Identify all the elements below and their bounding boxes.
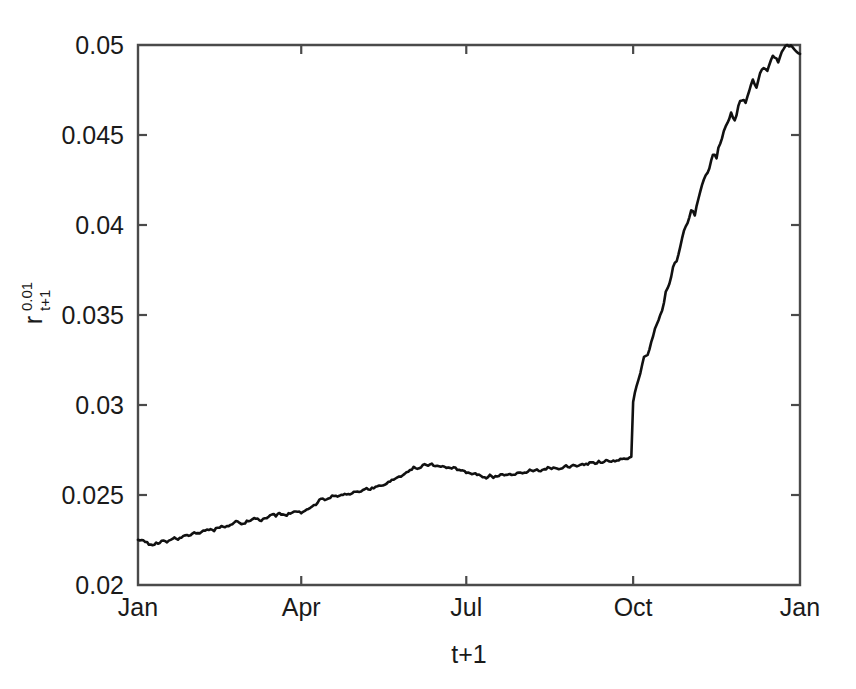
y-axis-title: r 0.01 t+1 xyxy=(18,282,53,324)
x-axis-title: t+1 xyxy=(451,640,486,668)
figure-container: 0.020.0250.030.0350.040.0450.05 JanAprJu… xyxy=(0,0,856,689)
series-line-r-001 xyxy=(138,45,800,545)
x-tick-label: Jul xyxy=(450,593,482,621)
x-tick-label: Oct xyxy=(614,593,653,621)
y-tick-label: 0.05 xyxy=(75,31,124,59)
data-series-group xyxy=(138,45,800,545)
y-tick-label: 0.035 xyxy=(61,301,124,329)
y-tick-label: 0.04 xyxy=(75,211,124,239)
axis-frame xyxy=(138,45,800,585)
y-tick-label: 0.025 xyxy=(61,481,124,509)
y-axis-tick-labels: 0.020.0250.030.0350.040.0450.05 xyxy=(61,31,124,599)
y-axis-title-subscript: t+1 xyxy=(36,290,53,311)
y-tick-label: 0.02 xyxy=(75,571,124,599)
x-axis-ticks xyxy=(301,45,633,585)
y-axis-title-superscript: 0.01 xyxy=(18,282,35,311)
y-axis-title-base: r xyxy=(19,316,47,324)
x-axis-tick-labels: JanAprJulOctJan xyxy=(118,593,820,621)
x-tick-label: Jan xyxy=(780,593,820,621)
y-tick-label: 0.03 xyxy=(75,391,124,419)
y-tick-label: 0.045 xyxy=(61,121,124,149)
x-tick-label: Apr xyxy=(282,593,321,621)
x-tick-label: Jan xyxy=(118,593,158,621)
line-chart: 0.020.0250.030.0350.040.0450.05 JanAprJu… xyxy=(0,0,856,689)
